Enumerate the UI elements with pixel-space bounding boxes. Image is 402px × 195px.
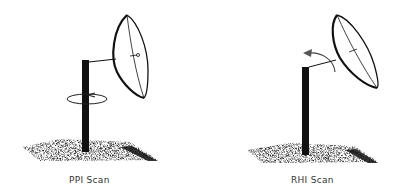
- ppi-scan-caption: PPI Scan: [69, 175, 110, 185]
- ground-speckle: [22, 139, 158, 161]
- radar-dish-icon: [113, 15, 148, 98]
- rhi-scan-caption: RHI Scan: [291, 175, 334, 185]
- feed-arm: [89, 59, 116, 62]
- antenna-mast: [302, 67, 309, 155]
- rhi-diagram: [247, 15, 378, 163]
- radar-dish-icon: [333, 15, 378, 88]
- antenna-mast: [82, 60, 89, 152]
- ppi-diagram: [22, 15, 158, 161]
- ground-speckle: [247, 143, 378, 163]
- scan-diagram: [0, 0, 402, 195]
